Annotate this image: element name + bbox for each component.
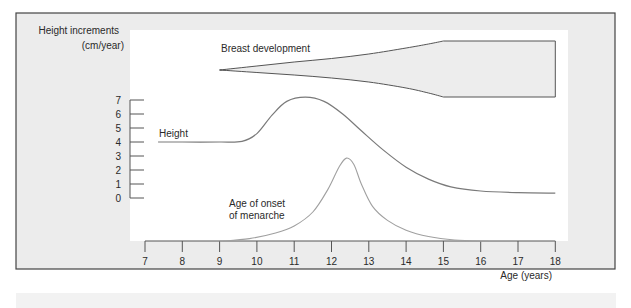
- y-tick-label: 2: [115, 165, 121, 176]
- x-tick-label: 18: [550, 256, 562, 267]
- caption-band: [16, 293, 616, 308]
- puberty-growth-chart: Height increments (cm/year) 01234567 789…: [0, 0, 631, 308]
- x-tick-label: 15: [438, 256, 450, 267]
- x-axis-label: Age (years): [500, 270, 552, 281]
- x-tick-label: 17: [512, 256, 524, 267]
- x-tick-label: 11: [289, 256, 300, 267]
- y-tick-label: 6: [115, 109, 121, 120]
- y-axis-label-line-2: (cm/year): [82, 40, 124, 51]
- breast-development-label: Breast development: [221, 43, 310, 54]
- y-axis-label-line-1: Height increments: [38, 25, 119, 36]
- x-tick-label: 8: [180, 256, 186, 267]
- x-tick-label: 14: [401, 256, 413, 267]
- menarche-label-line-1: Age of onset: [229, 198, 285, 209]
- y-tick-label: 7: [115, 95, 121, 106]
- x-tick-label: 12: [326, 256, 338, 267]
- height-label: Height: [159, 128, 188, 139]
- x-tick-label: 9: [217, 256, 223, 267]
- y-tick-label: 1: [115, 179, 121, 190]
- x-tick-label: 10: [251, 256, 263, 267]
- x-tick-label: 7: [142, 256, 148, 267]
- y-tick-label: 3: [115, 151, 121, 162]
- menarche-label-line-2: of menarche: [229, 210, 285, 221]
- y-tick-label: 5: [115, 123, 121, 134]
- chart-canvas: Height increments (cm/year) 01234567 789…: [0, 0, 631, 308]
- x-tick-label: 13: [363, 256, 375, 267]
- y-tick-label: 4: [115, 137, 121, 148]
- y-tick-label: 0: [115, 193, 121, 204]
- x-tick-label: 16: [475, 256, 487, 267]
